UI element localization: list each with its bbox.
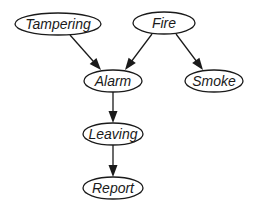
edge-tampering-to-alarm xyxy=(70,35,101,70)
arrowhead-icon xyxy=(125,58,136,70)
edge-fire-to-smoke xyxy=(176,34,203,70)
arrowhead-icon xyxy=(192,58,203,70)
edge-line xyxy=(176,34,197,62)
node-leaving: Leaving xyxy=(83,123,143,145)
edge-line xyxy=(70,35,94,63)
nodes-group: TamperingFireAlarmSmokeLeavingReport xyxy=(15,12,243,199)
node-fire: Fire xyxy=(133,12,195,34)
node-label: Leaving xyxy=(88,126,137,142)
edges-group xyxy=(70,34,203,177)
node-label: Smoke xyxy=(192,73,236,89)
bayesian-network-diagram: TamperingFireAlarmSmokeLeavingReport xyxy=(0,0,257,210)
node-label: Tampering xyxy=(25,16,91,32)
edge-line xyxy=(131,34,152,62)
arrowhead-icon xyxy=(109,165,118,177)
node-label: Report xyxy=(92,180,135,196)
node-smoke: Smoke xyxy=(185,70,243,92)
edge-fire-to-alarm xyxy=(125,34,152,70)
node-report: Report xyxy=(83,177,143,199)
node-tampering: Tampering xyxy=(15,13,101,35)
node-label: Alarm xyxy=(94,73,132,89)
edge-alarm-to-leaving xyxy=(109,92,118,123)
node-label: Fire xyxy=(152,15,176,31)
arrowhead-icon xyxy=(109,111,118,123)
edge-leaving-to-report xyxy=(109,145,118,177)
node-alarm: Alarm xyxy=(84,70,142,92)
